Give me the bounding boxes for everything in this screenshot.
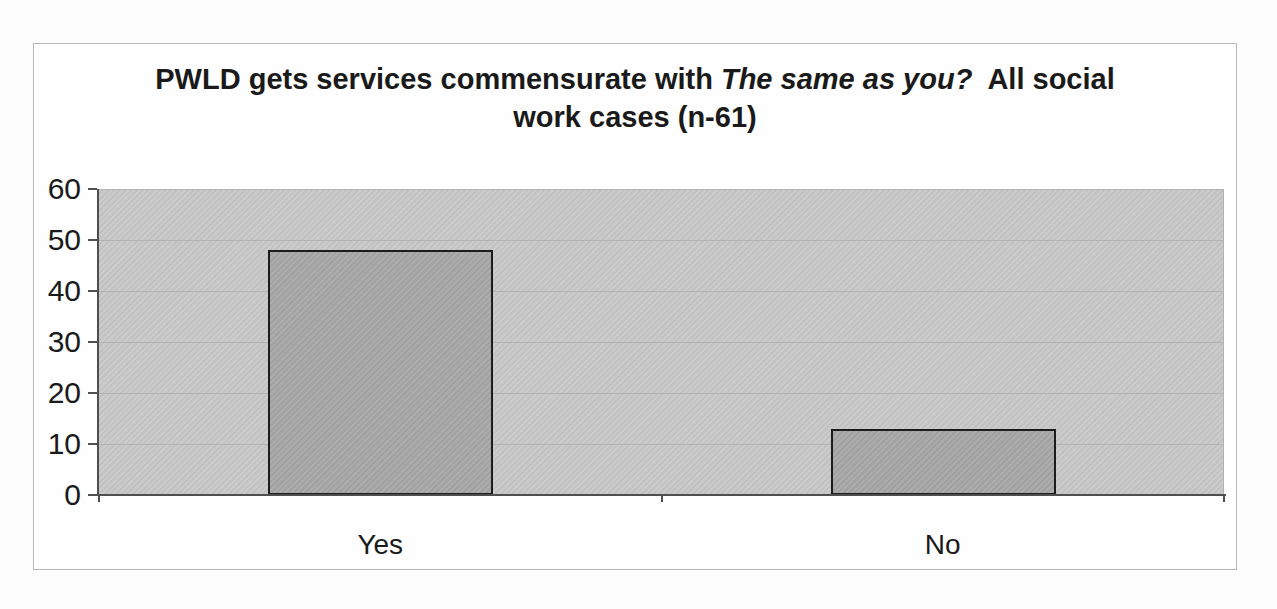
x-tick-label-no: No (843, 529, 1043, 561)
y-tick-label: 60 (48, 174, 81, 204)
y-tick-label: 40 (48, 276, 81, 306)
chart-frame: PWLD gets services commensurate with The… (33, 43, 1237, 570)
y-axis-labels: 0102030405060 (34, 189, 99, 495)
bar-yes (268, 250, 493, 495)
y-tick-mark (88, 392, 97, 394)
y-tick-label: 20 (48, 378, 81, 408)
chart-title-line1: PWLD gets services commensurate with The… (34, 60, 1236, 98)
x-axis-labels: YesNo (34, 496, 1236, 566)
bar-no (831, 429, 1056, 495)
x-axis-tick (1223, 496, 1225, 502)
y-tick-mark (88, 239, 97, 241)
y-tick-label: 30 (48, 327, 81, 357)
x-tick-label-yes: Yes (280, 529, 480, 561)
chart-title: PWLD gets services commensurate with The… (34, 60, 1236, 136)
y-tick-label: 10 (48, 429, 81, 459)
gridline (99, 240, 1223, 241)
plot-area (99, 189, 1224, 495)
x-axis-tick (98, 496, 100, 502)
chart-title-italic: The same as you? (721, 63, 972, 95)
y-tick-mark (88, 443, 97, 445)
chart-title-line2: work cases (n-61) (34, 98, 1236, 136)
y-tick-label: 50 (48, 225, 81, 255)
chart-title-prefix: PWLD gets services commensurate with (155, 63, 721, 95)
y-tick-mark (88, 341, 97, 343)
y-tick-mark (88, 188, 97, 190)
y-tick-mark (88, 290, 97, 292)
x-axis-tick (661, 496, 663, 502)
chart-title-suffix: All social (972, 63, 1114, 95)
